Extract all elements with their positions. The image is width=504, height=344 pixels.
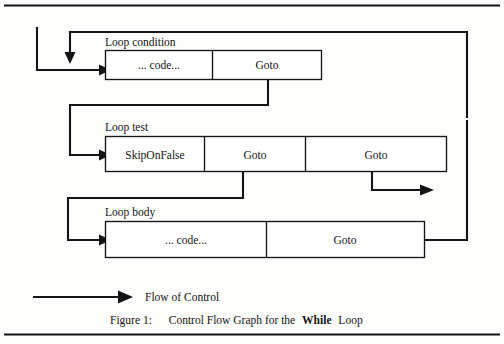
figure-caption-emphasis: While (302, 314, 331, 326)
loop-test-goto2-exit-arrowhead-icon (420, 185, 434, 196)
loop-test-skiponfalse-cell[interactable]: SkipOnFalse (125, 149, 184, 162)
loop-back-arrowhead-icon (65, 52, 76, 64)
control-flow-graph-figure: Loop condition ... code... Goto Loop tes… (0, 0, 504, 344)
loop-test-group-label: Loop test (105, 121, 149, 134)
figure-caption-prefix: Control Flow Graph for the (169, 314, 295, 327)
flow-of-control-label: Flow of Control (145, 291, 219, 303)
loop-condition-goto-cell[interactable]: Goto (256, 59, 279, 71)
figure-number-label: Figure 1: (110, 314, 152, 327)
flow-of-control-arrowhead-icon (118, 291, 133, 304)
figure-page: Loop condition ... code... Goto Loop tes… (0, 0, 504, 344)
loop-test-goto1-cell[interactable]: Goto (244, 149, 267, 161)
figure-caption: Figure 1: Control Flow Graph for the Whi… (110, 314, 363, 327)
entry-flow-line (37, 27, 99, 70)
loop-body-goto-cell[interactable]: Goto (334, 234, 357, 246)
loop-test-goto2-cell[interactable]: Goto (365, 149, 388, 161)
loop-condition-group-label: Loop condition (105, 36, 176, 49)
loop-body-code-cell[interactable]: ... code... (165, 234, 207, 246)
loop-condition-code-cell[interactable]: ... code... (138, 59, 180, 71)
loop-body-box[interactable] (106, 222, 425, 258)
loop-body-group-label: Loop body (105, 206, 155, 219)
figure-caption-suffix: Loop (338, 314, 363, 327)
loop-test-goto2-exit-flow-line (372, 172, 420, 190)
